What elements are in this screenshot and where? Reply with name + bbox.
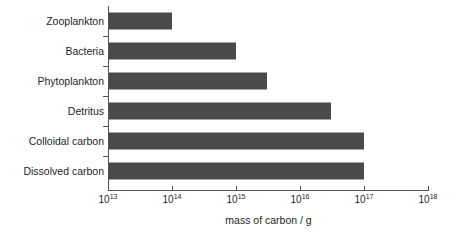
category-label: Dissolved carbon <box>23 165 104 177</box>
bar <box>108 103 331 120</box>
chart-row: Zooplankton <box>0 6 459 36</box>
bar <box>108 163 364 180</box>
category-label: Bacteria <box>65 45 104 57</box>
x-axis-tick-label: 1018 <box>419 194 438 206</box>
x-axis-tick <box>108 186 109 191</box>
x-axis-tick <box>364 186 365 191</box>
bar <box>108 43 236 60</box>
x-axis-tick-label: 1015 <box>227 194 246 206</box>
x-axis-tick <box>236 186 237 191</box>
chart-row: Dissolved carbon <box>0 156 459 186</box>
y-axis-line <box>108 6 109 191</box>
chart-row: Phytoplankton <box>0 66 459 96</box>
x-axis-tick-label: 1017 <box>355 194 374 206</box>
chart-row: Bacteria <box>0 36 459 66</box>
x-axis-title: mass of carbon / g <box>108 214 429 227</box>
category-label: Phytoplankton <box>37 75 104 87</box>
chart-row: Detritus <box>0 96 459 126</box>
x-axis-tick-label: 1013 <box>99 194 118 206</box>
chart-plot-area: ZooplanktonBacteriaPhytoplanktonDetritus… <box>0 0 459 190</box>
bar <box>108 133 364 150</box>
category-label: Zooplankton <box>46 15 104 27</box>
chart-row: Colloidal carbon <box>0 126 459 156</box>
x-axis-tick <box>300 186 301 191</box>
x-axis-line <box>108 190 429 191</box>
x-axis-tick <box>172 186 173 191</box>
bar <box>108 13 172 30</box>
x-axis-tick-label: 1014 <box>163 194 182 206</box>
bar-chart: ZooplanktonBacteriaPhytoplanktonDetritus… <box>0 0 459 237</box>
category-label: Colloidal carbon <box>29 135 104 147</box>
bar <box>108 73 267 90</box>
x-axis-tick <box>428 186 429 191</box>
category-label: Detritus <box>68 105 104 117</box>
x-axis-tick-label: 1016 <box>291 194 310 206</box>
